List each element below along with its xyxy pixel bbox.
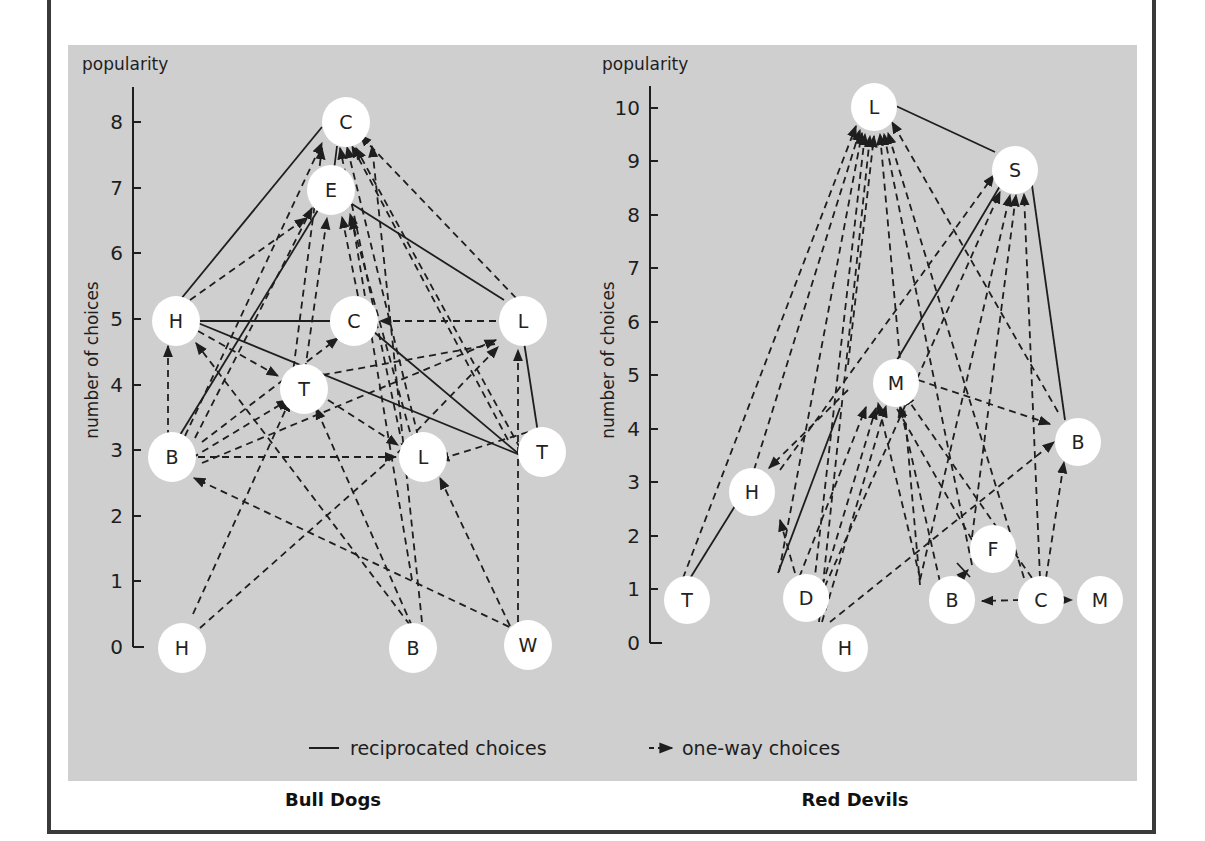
tick-8: 8	[110, 110, 123, 134]
svg-text:S: S	[1009, 159, 1021, 181]
svg-text:L: L	[518, 310, 529, 332]
group-title-bull-dogs: Bull Dogs	[285, 789, 381, 810]
tick-8: 8	[627, 203, 640, 227]
svg-text:D: D	[799, 587, 814, 609]
node-B-0: B	[389, 623, 437, 673]
svg-text:E: E	[325, 179, 337, 201]
node-C-8: C	[322, 97, 370, 147]
svg-text:H: H	[175, 637, 189, 659]
sociogram-canvas: popularity number of choices 0 1 2 3 4 5…	[0, 0, 1205, 841]
tick-3: 3	[110, 438, 123, 462]
tick-5: 5	[110, 307, 123, 331]
tick-6: 6	[627, 310, 640, 334]
svg-text:C: C	[1034, 589, 1047, 611]
tick-1: 1	[627, 577, 640, 601]
svg-text:reciprocated choices: reciprocated choices	[350, 737, 547, 759]
legend-reciprocated: reciprocated choices	[309, 737, 547, 759]
node-T-1: T	[664, 576, 710, 624]
tick-9: 9	[627, 149, 640, 173]
node-C-5: C	[330, 296, 378, 346]
svg-text:C: C	[347, 310, 360, 332]
node-B-1: B	[929, 576, 975, 624]
svg-text:H: H	[745, 481, 759, 503]
node-H-3: H	[729, 468, 775, 516]
node-L-10: L	[851, 83, 897, 131]
popularity-axis-title: popularity	[602, 54, 688, 74]
svg-text:B: B	[406, 637, 419, 659]
tick-3: 3	[627, 470, 640, 494]
bull-dogs-sociogram: popularity number of choices 0 1 2 3 4 5…	[82, 54, 566, 810]
node-B-4: B	[1055, 418, 1101, 466]
tick-0: 0	[627, 631, 640, 655]
node-M-1: M	[1077, 576, 1123, 624]
tick-4: 4	[110, 373, 123, 397]
svg-text:B: B	[1071, 431, 1084, 453]
svg-text:T: T	[297, 378, 310, 400]
group-title-red-devils: Red Devils	[801, 789, 908, 810]
node-T-4: T	[280, 364, 328, 414]
svg-text:L: L	[869, 96, 880, 118]
node-T-3: T	[518, 427, 566, 477]
svg-text:C: C	[339, 111, 352, 133]
svg-text:T: T	[680, 589, 693, 611]
tick-4: 4	[627, 417, 640, 441]
svg-text:W: W	[519, 634, 538, 656]
svg-text:M: M	[888, 372, 904, 394]
tick-0: 0	[110, 635, 123, 659]
svg-text:B: B	[165, 446, 178, 468]
node-C-1: C	[1018, 576, 1064, 624]
svg-text:one-way choices: one-way choices	[682, 737, 840, 759]
svg-text:H: H	[169, 310, 183, 332]
tick-10: 10	[615, 96, 640, 120]
node-L-5: L	[499, 296, 547, 346]
tick-2: 2	[627, 524, 640, 548]
choices-axis-title: number of choices	[82, 281, 102, 439]
choices-axis-title: number of choices	[598, 281, 618, 439]
tick-6: 6	[110, 241, 123, 265]
tick-1: 1	[110, 569, 123, 593]
svg-text:F: F	[988, 538, 999, 560]
y-axis	[650, 86, 662, 643]
tick-7: 7	[627, 256, 640, 280]
node-L-3: L	[399, 432, 447, 482]
node-B-3: B	[148, 432, 196, 482]
node-D-1: D	[783, 574, 829, 622]
svg-text:B: B	[945, 589, 958, 611]
node-M-5: M	[873, 359, 919, 407]
node-H-0: H	[822, 624, 868, 672]
tick-5: 5	[627, 363, 640, 387]
one-way-edges	[168, 135, 528, 632]
svg-text:T: T	[535, 441, 548, 463]
node-E-7: E	[307, 165, 355, 215]
legend-one-way: one-way choices	[649, 737, 840, 759]
red-devils-sociogram: popularity number of choices 0 1 2 3 4 5…	[598, 54, 1123, 810]
svg-text:L: L	[418, 446, 429, 468]
tick-2: 2	[110, 504, 123, 528]
node-H-5: H	[152, 296, 200, 346]
svg-text:M: M	[1092, 589, 1108, 611]
tick-7: 7	[110, 176, 123, 200]
red-devils-nodes: L S M B H F T D B C M H	[664, 83, 1123, 672]
y-tick-labels: 0 1 2 3 4 5 6 7 8 9 10	[615, 96, 640, 655]
y-axis	[133, 87, 144, 647]
node-F-2: F	[970, 525, 1016, 573]
y-tick-labels: 0 1 2 3 4 5 6 7 8	[110, 110, 123, 659]
popularity-axis-title: popularity	[82, 54, 168, 74]
node-W-0: W	[504, 620, 552, 670]
node-S-9: S	[992, 146, 1038, 194]
svg-text:H: H	[838, 637, 852, 659]
node-H-0: H	[158, 623, 206, 673]
